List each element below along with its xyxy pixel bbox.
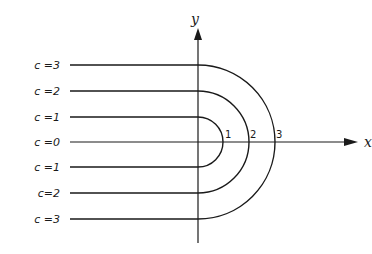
tick-label: 1: [225, 129, 231, 140]
streamline-diagram: c =3c =3c =2c=2c =1c =1c =0 xy 123: [0, 0, 372, 254]
x-axis-arrow-icon: [344, 138, 358, 146]
curve-label-bottom: c =3: [34, 213, 60, 226]
curve-label-top: c =3: [34, 59, 60, 72]
tick-label: 2: [250, 129, 256, 140]
x-axis-label: x: [364, 134, 372, 150]
curve-label-bottom: c =1: [34, 161, 60, 174]
curve-labels: c =3c =3c =2c=2c =1c =1c =0: [34, 59, 60, 226]
curve-label-top: c =2: [34, 85, 60, 98]
curve-label-bottom: c=2: [38, 187, 60, 200]
y-axis-arrow-icon: [194, 28, 202, 40]
curve-label-c0: c =0: [34, 136, 60, 149]
y-axis-label: y: [190, 11, 200, 27]
curve-label-top: c =1: [34, 111, 60, 124]
tick-label: 3: [276, 129, 282, 140]
